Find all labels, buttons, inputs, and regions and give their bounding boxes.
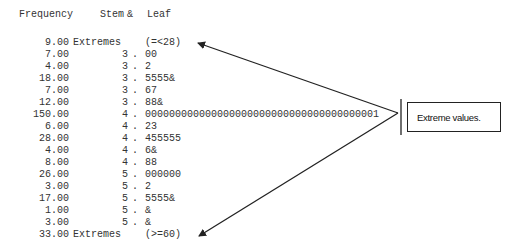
arrow-to-high-extremes — [199, 113, 398, 236]
callout-label: Extreme values. — [417, 112, 481, 123]
arrow-to-low-extremes — [198, 43, 398, 113]
extreme-values-callout: Extreme values. — [407, 102, 501, 132]
